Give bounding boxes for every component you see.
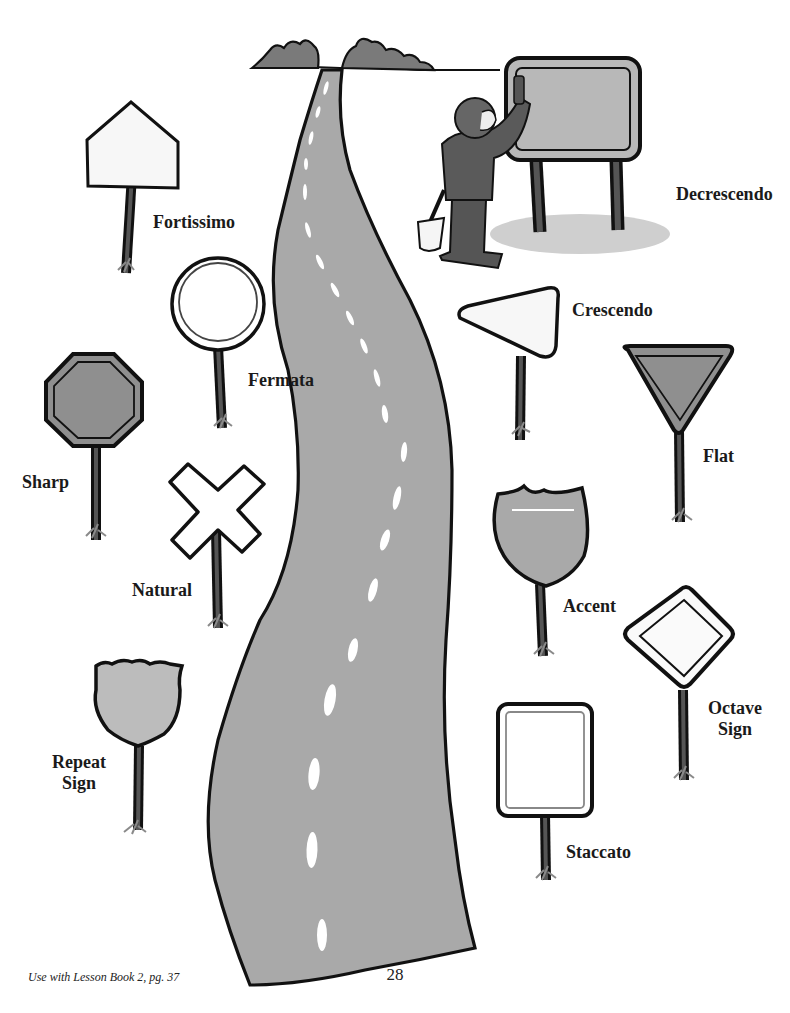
label-crescendo: Crescendo: [572, 300, 653, 321]
natural-sign: [170, 464, 264, 628]
label-fermata: Fermata: [248, 370, 314, 391]
footer-lesson-reference: Use with Lesson Book 2, pg. 37: [28, 970, 179, 985]
fortissimo-sign: [87, 102, 178, 273]
flat-sign: [624, 346, 732, 522]
label-octave-line1: Octave: [708, 698, 762, 719]
label-octave-line2: Sign: [708, 719, 762, 740]
repeat-sign: [95, 660, 182, 834]
label-staccato: Staccato: [566, 842, 631, 863]
label-octave-sign: Octave Sign: [708, 698, 762, 740]
label-fortissimo: Fortissimo: [153, 212, 235, 233]
accent-sign: [494, 486, 587, 656]
label-accent: Accent: [563, 596, 616, 617]
illustration-scene: [0, 0, 790, 1013]
label-decrescendo: Decrescendo: [676, 184, 773, 205]
sharp-sign: [46, 354, 142, 540]
page-number: 28: [370, 965, 420, 985]
label-flat: Flat: [703, 446, 734, 467]
tree-cluster-icon: [252, 39, 434, 70]
fermata-sign: [172, 258, 264, 428]
crescendo-sign: [459, 288, 558, 440]
label-natural: Natural: [132, 580, 192, 601]
octave-sign: [625, 587, 733, 780]
label-repeat-line1: Repeat: [52, 752, 106, 773]
label-repeat-sign: Repeat Sign: [52, 752, 106, 794]
label-sharp: Sharp: [22, 472, 69, 493]
label-repeat-line2: Sign: [52, 773, 106, 794]
